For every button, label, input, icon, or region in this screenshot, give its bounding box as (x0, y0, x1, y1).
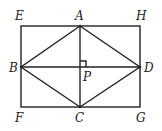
label-A: A (74, 9, 84, 23)
label-B: B (8, 61, 18, 75)
label-F: F (14, 111, 24, 125)
right-angle-mark (80, 61, 86, 67)
label-P: P (82, 70, 92, 84)
label-G: G (136, 111, 146, 125)
label-H: H (135, 9, 147, 23)
point-C (79, 106, 82, 109)
point-A (79, 25, 82, 28)
label-E: E (14, 9, 24, 23)
point-D (139, 66, 142, 69)
label-C: C (75, 111, 84, 125)
label-D: D (143, 61, 154, 75)
point-B (20, 66, 23, 69)
geometry-diagram: E A H B D P F C G (0, 0, 162, 131)
